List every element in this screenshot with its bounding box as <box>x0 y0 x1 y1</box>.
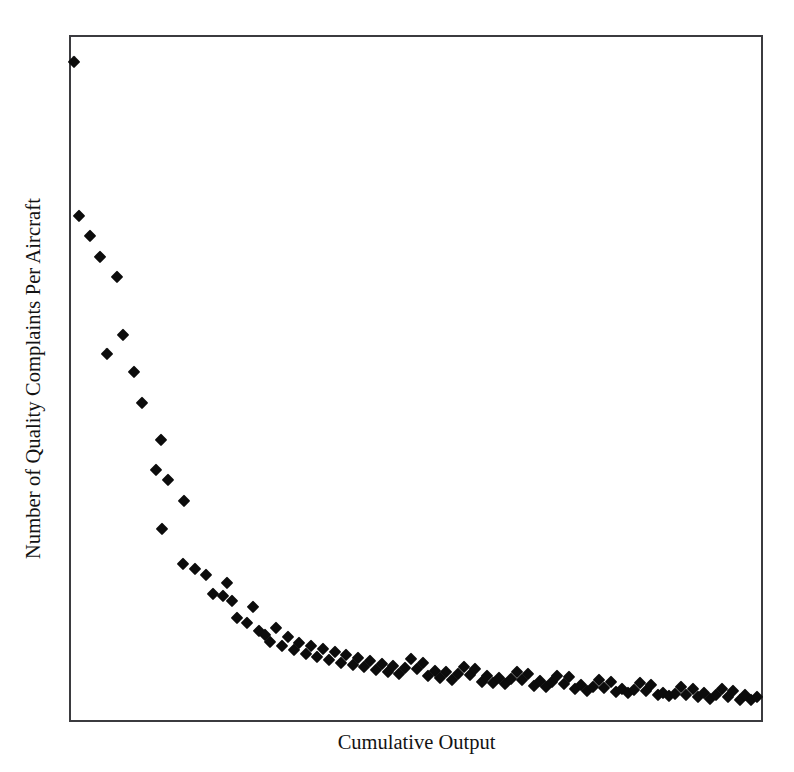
scatter-point <box>110 270 123 283</box>
scatter-point <box>149 464 162 477</box>
scatter-plot-area <box>71 37 761 720</box>
scatter-point <box>127 366 140 379</box>
scatter-point <box>176 558 189 571</box>
y-axis-label-container: Number of Quality Complaints Per Aircraf… <box>14 35 54 722</box>
scatter-point <box>220 577 233 590</box>
scatter-point <box>200 569 213 582</box>
chart-figure: Number of Quality Complaints Per Aircraf… <box>0 0 794 772</box>
scatter-point <box>83 229 96 242</box>
chart-title <box>0 0 794 4</box>
scatter-point <box>67 55 80 68</box>
scatter-point <box>93 250 106 263</box>
scatter-point <box>154 433 167 446</box>
scatter-point <box>178 495 191 508</box>
scatter-point <box>161 473 174 486</box>
x-axis-label: Cumulative Output <box>69 731 764 754</box>
scatter-point <box>73 209 86 222</box>
scatter-point <box>247 600 260 613</box>
y-axis-label: Number of Quality Complaints Per Aircraf… <box>23 198 46 559</box>
scatter-point <box>100 347 113 360</box>
plot-frame <box>69 35 763 722</box>
scatter-point <box>117 328 130 341</box>
scatter-point <box>136 397 149 410</box>
scatter-point <box>156 522 169 535</box>
scatter-point <box>269 622 282 635</box>
